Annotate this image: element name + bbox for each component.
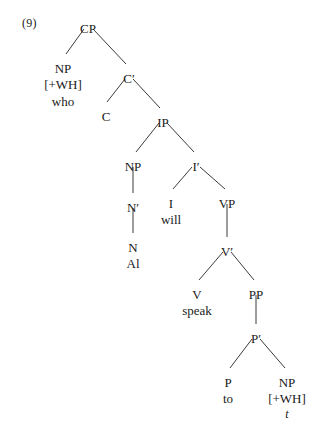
tree-edge-cp-cbar xyxy=(93,29,126,64)
node-label: NP xyxy=(268,376,306,389)
tree-node-i: Iwill xyxy=(161,197,181,227)
node-word: to xyxy=(223,391,233,406)
tree-node-np1: NP[+WH]who xyxy=(44,62,82,109)
tree-node-nbar: N′ xyxy=(127,201,139,214)
node-word: Al xyxy=(127,256,140,271)
tree-node-n: NAl xyxy=(127,241,140,271)
tree-node-p: Pto xyxy=(223,376,233,406)
node-label: I xyxy=(161,197,181,210)
tree-edge-ibar-vp xyxy=(200,167,225,189)
tree-edge-ip-ibar xyxy=(167,123,194,152)
tree-node-pbar: P′ xyxy=(251,332,261,345)
node-label: N′ xyxy=(127,201,139,214)
tree-node-v: Vspeak xyxy=(182,288,212,318)
tree-edge-ip-np2 xyxy=(136,123,159,152)
node-label: N xyxy=(127,241,140,254)
tree-edge-vbar-v xyxy=(199,252,223,280)
tree-node-ibar: I′ xyxy=(192,160,199,173)
node-label: I′ xyxy=(192,160,199,173)
tree-edge-cbar-ip xyxy=(133,79,160,108)
node-trace: t xyxy=(268,407,306,421)
node-label: IP xyxy=(157,116,169,129)
node-word: who xyxy=(44,94,82,109)
node-label: P xyxy=(223,376,233,389)
tree-edge-pbar-p xyxy=(230,339,252,368)
node-label: C′ xyxy=(123,72,135,85)
tree-edge-vbar-pp xyxy=(231,252,254,280)
node-label: NP xyxy=(44,62,82,75)
syntax-tree-figure: (9) CPNP[+WH]whoC′CIPNPI′N′IwillVPNAlV′V… xyxy=(0,0,322,437)
tree-node-vp: VP xyxy=(219,197,236,210)
node-word: speak xyxy=(182,303,212,318)
tree-node-vbar: V′ xyxy=(221,245,233,258)
node-label: PP xyxy=(249,288,263,301)
tree-node-np3: NP[+WH]t xyxy=(268,376,306,421)
example-number: (9) xyxy=(22,16,37,31)
node-label: V′ xyxy=(221,245,233,258)
tree-edge-ibar-i xyxy=(173,167,192,189)
node-feature: [+WH] xyxy=(268,391,306,406)
tree-node-cp: CP xyxy=(80,22,96,35)
node-label: C xyxy=(102,110,111,123)
node-word: will xyxy=(161,212,181,227)
tree-node-pp: PP xyxy=(249,288,263,301)
node-label: P′ xyxy=(251,332,261,345)
tree-node-c: C xyxy=(102,110,111,123)
node-label: V xyxy=(182,288,212,301)
tree-node-cbar: C′ xyxy=(123,72,135,85)
tree-node-np2: NP xyxy=(125,160,142,173)
node-label: VP xyxy=(219,197,236,210)
tree-edge-pbar-np3 xyxy=(260,339,285,368)
node-label: NP xyxy=(125,160,142,173)
node-label: CP xyxy=(80,22,96,35)
node-feature: [+WH] xyxy=(44,77,82,92)
tree-node-ip: IP xyxy=(157,116,169,129)
